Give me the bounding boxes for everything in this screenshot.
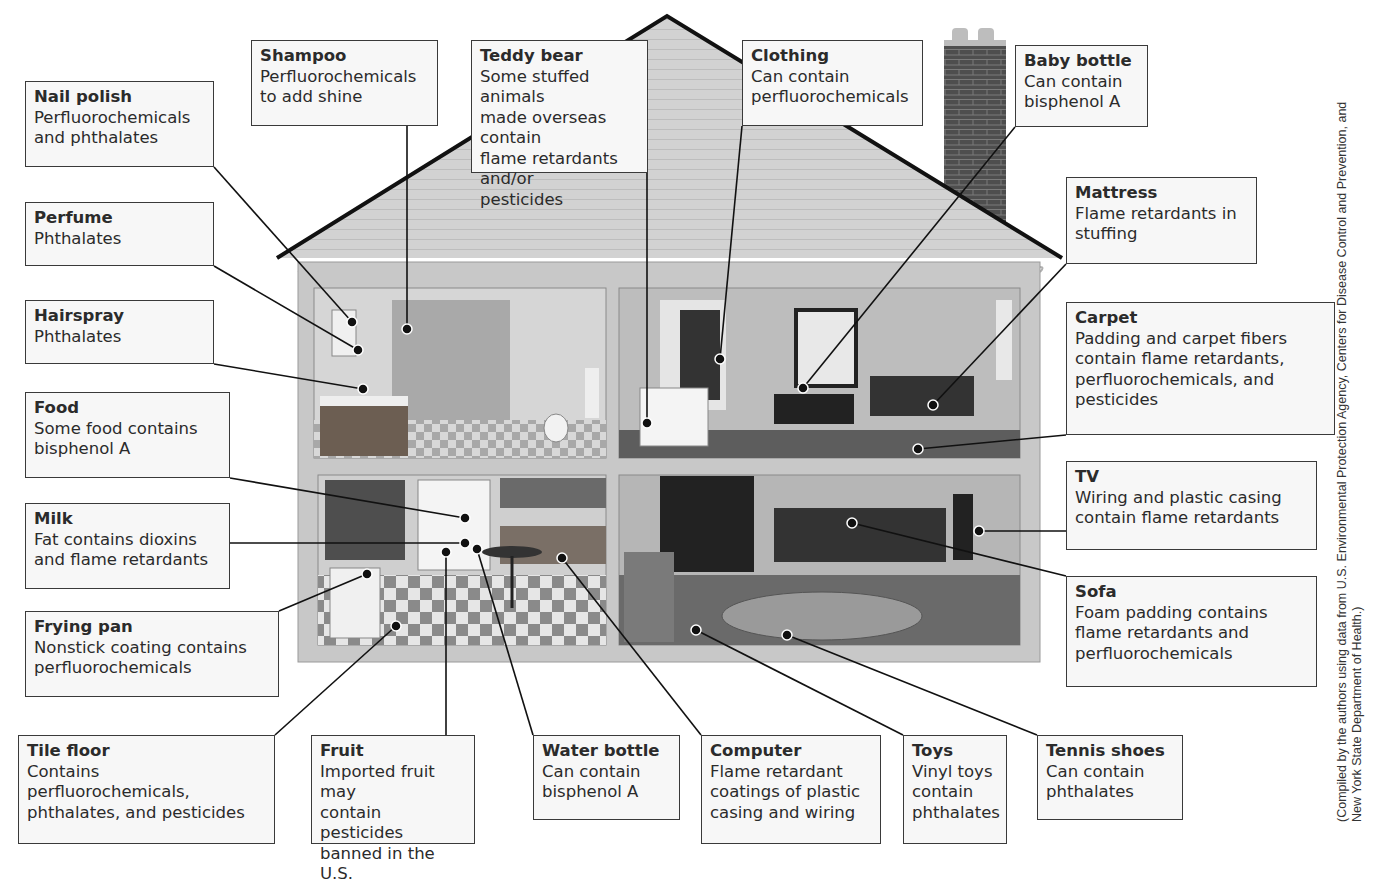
callout-description: Foam padding contains flame retardants a… xyxy=(1075,603,1308,665)
callout-toys: ToysVinyl toys contain phthalates xyxy=(903,735,1007,844)
callout-shampoo: ShampooPerfluorochemicals to add shine xyxy=(251,40,438,126)
callout-frying-pan: Frying panNonstick coating contains perf… xyxy=(25,611,279,697)
callout-title: Baby bottle xyxy=(1024,51,1139,72)
target-dot-icon xyxy=(391,621,401,631)
callout-teddy-bear: Teddy bearSome stuffed animals made over… xyxy=(471,40,648,173)
callout-title: Milk xyxy=(34,509,221,530)
target-dot-icon xyxy=(928,400,938,410)
callout-hairspray: HairsprayPhthalates xyxy=(25,300,214,364)
callout-title: Water bottle xyxy=(542,741,671,762)
room-living-room xyxy=(619,475,1020,645)
house-body xyxy=(298,262,1040,662)
callout-title: Teddy bear xyxy=(480,46,639,67)
callout-title: Fruit xyxy=(320,741,466,762)
callout-title: Food xyxy=(34,398,221,419)
source-credit: (Compiled by the authors using data from… xyxy=(1335,42,1365,822)
callout-description: Vinyl toys contain phthalates xyxy=(912,762,998,824)
room-bathroom xyxy=(314,288,606,458)
callout-description: Fat contains dioxins and flame retardant… xyxy=(34,530,221,571)
callout-description: Some food contains bisphenol A xyxy=(34,419,221,460)
callout-tile-floor: Tile floorContains perfluorochemicals, p… xyxy=(18,735,275,844)
target-dot-icon xyxy=(353,345,363,355)
callout-nail-polish: Nail polishPerfluorochemicals and phthal… xyxy=(25,81,214,167)
target-dot-icon xyxy=(913,444,923,454)
callout-description: Some stuffed animals made overseas conta… xyxy=(480,67,639,211)
callout-description: Padding and carpet fibers contain flame … xyxy=(1075,329,1326,411)
target-dot-icon xyxy=(715,354,725,364)
callout-title: Tile floor xyxy=(27,741,266,762)
target-dot-icon xyxy=(557,553,567,563)
callout-tennis-shoes: Tennis shoesCan contain phthalates xyxy=(1037,735,1183,820)
target-dot-icon xyxy=(362,569,372,579)
callout-title: Frying pan xyxy=(34,617,270,638)
target-dot-icon xyxy=(460,513,470,523)
callout-tv: TVWiring and plastic casing contain flam… xyxy=(1066,461,1317,550)
callout-description: Can contain perfluorochemicals xyxy=(751,67,914,108)
callout-title: Tennis shoes xyxy=(1046,741,1174,762)
callout-title: Shampoo xyxy=(260,46,429,67)
callout-description: Can contain bisphenol A xyxy=(1024,72,1139,113)
room-bedroom xyxy=(619,288,1020,458)
target-dot-icon xyxy=(441,547,451,557)
callout-title: Carpet xyxy=(1075,308,1326,329)
callout-baby-bottle: Baby bottleCan contain bisphenol A xyxy=(1015,45,1148,127)
callout-fruit: FruitImported fruit may contain pesticid… xyxy=(311,735,475,844)
target-dot-icon xyxy=(347,317,357,327)
callout-description: Perfluorochemicals to add shine xyxy=(260,67,429,108)
callout-perfume: PerfumePhthalates xyxy=(25,202,214,266)
callout-description: Perfluorochemicals and phthalates xyxy=(34,108,205,149)
callout-title: Toys xyxy=(912,741,998,762)
callout-title: Perfume xyxy=(34,208,205,229)
callout-title: Clothing xyxy=(751,46,914,67)
target-dot-icon xyxy=(472,544,482,554)
callout-description: Contains perfluorochemicals, phthalates,… xyxy=(27,762,266,824)
callout-description: Flame retardants in stuffing xyxy=(1075,204,1248,245)
callout-mattress: MattressFlame retardants in stuffing xyxy=(1066,177,1257,264)
target-dot-icon xyxy=(782,630,792,640)
callout-description: Imported fruit may contain pesticides ba… xyxy=(320,762,466,883)
callout-title: Hairspray xyxy=(34,306,205,327)
target-dot-icon xyxy=(847,518,857,528)
callout-description: Wiring and plastic casing contain flame … xyxy=(1075,488,1308,529)
callout-carpet: CarpetPadding and carpet fibers contain … xyxy=(1066,302,1335,435)
target-dot-icon xyxy=(402,324,412,334)
callout-description: Can contain phthalates xyxy=(1046,762,1174,803)
callout-sofa: SofaFoam padding contains flame retardan… xyxy=(1066,576,1317,687)
callout-title: Computer xyxy=(710,741,872,762)
target-dot-icon xyxy=(460,538,470,548)
callout-description: Can contain bisphenol A xyxy=(542,762,671,803)
target-dot-icon xyxy=(642,418,652,428)
target-dot-icon xyxy=(358,384,368,394)
callout-title: TV xyxy=(1075,467,1308,488)
callout-description: Phthalates xyxy=(34,327,205,348)
callout-clothing: ClothingCan contain perfluorochemicals xyxy=(742,40,923,126)
target-dot-icon xyxy=(691,625,701,635)
callout-computer: ComputerFlame retardant coatings of plas… xyxy=(701,735,881,844)
callout-title: Mattress xyxy=(1075,183,1248,204)
target-dot-icon xyxy=(974,526,984,536)
target-dot-icon xyxy=(798,383,808,393)
callout-description: Flame retardant coatings of plastic casi… xyxy=(710,762,872,824)
callout-water-bottle: Water bottleCan contain bisphenol A xyxy=(533,735,680,820)
callout-food: FoodSome food contains bisphenol A xyxy=(25,392,230,478)
callout-description: Phthalates xyxy=(34,229,205,250)
callout-title: Nail polish xyxy=(34,87,205,108)
callout-milk: MilkFat contains dioxins and flame retar… xyxy=(25,503,230,589)
callout-title: Sofa xyxy=(1075,582,1308,603)
callout-description: Nonstick coating contains perfluorochemi… xyxy=(34,638,270,679)
